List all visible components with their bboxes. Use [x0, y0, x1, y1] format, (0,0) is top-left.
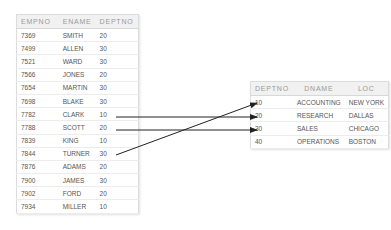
arrow-turner-to-10	[116, 103, 257, 155]
relationship-arrows	[0, 0, 391, 230]
